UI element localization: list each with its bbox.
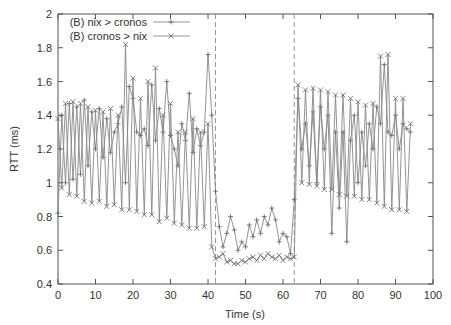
- x-tick-label: 90: [389, 289, 401, 301]
- series-2: [56, 42, 414, 266]
- legend-label-series-1: (B) nix > cronos: [70, 16, 148, 28]
- y-tick-label: 1.6: [37, 76, 52, 88]
- rtt-line-chart: 0102030405060708090100 0.40.60.811.21.41…: [0, 0, 451, 325]
- y-tick-label: 1.8: [37, 42, 52, 54]
- x-tick-label: 70: [314, 289, 326, 301]
- y-tick-label: 1: [46, 177, 52, 189]
- x-axis-title: Time (s): [225, 308, 265, 320]
- series-layer: [56, 42, 414, 266]
- x-tick-label: 50: [239, 289, 251, 301]
- legend: (B) nix > cronos (B) cronos > nix: [70, 16, 190, 42]
- x-tick-label: 0: [55, 289, 61, 301]
- legend-swatches: [153, 20, 190, 39]
- vertical-dashed-markers: [216, 14, 295, 284]
- plot-frame: [58, 14, 433, 284]
- legend-label-series-2: (B) cronos > nix: [70, 30, 148, 42]
- y-tick-label: 2: [46, 8, 52, 20]
- x-tick-label: 80: [352, 289, 364, 301]
- x-tick-label: 30: [164, 289, 176, 301]
- y-tick-label: 0.4: [37, 278, 52, 290]
- y-tick-label: 0.8: [37, 211, 52, 223]
- x-tick-label: 20: [127, 289, 139, 301]
- y-tick-label: 1.2: [37, 143, 52, 155]
- y-tick-label: 1.4: [37, 109, 52, 121]
- x-tick-label: 10: [89, 289, 101, 301]
- x-tick-label: 100: [424, 289, 442, 301]
- y-axis-title: RTT (ms): [8, 126, 20, 172]
- y-tick-label: 0.6: [37, 244, 52, 256]
- x-tick-label: 60: [277, 289, 289, 301]
- x-tick-label: 40: [202, 289, 214, 301]
